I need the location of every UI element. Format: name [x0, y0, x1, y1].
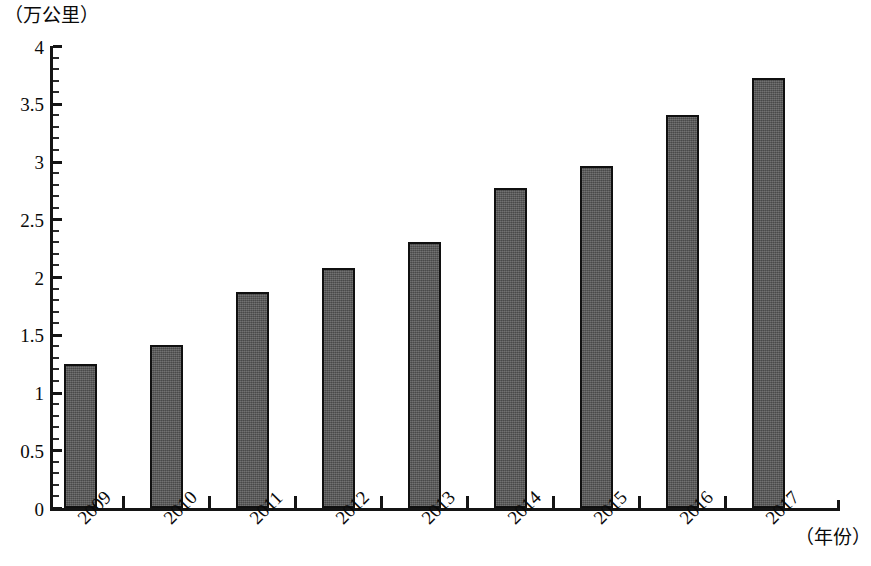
- bar: [666, 115, 699, 508]
- y-axis-minor-tick: [53, 230, 59, 232]
- y-axis-minor-tick: [53, 426, 59, 428]
- y-axis-tick: 4: [53, 45, 62, 48]
- bar-chart: （万公里） 00.511.522.533.54 2009201020112012…: [0, 0, 871, 566]
- y-axis-minor-tick: [53, 184, 59, 186]
- x-axis-tick: [294, 496, 297, 508]
- y-axis-tick-label: 4: [35, 37, 45, 56]
- y-axis-tick: 2.5: [53, 218, 62, 221]
- y-axis-minor-tick: [53, 126, 59, 128]
- y-axis-minor-tick: [53, 253, 59, 255]
- bar: [150, 345, 183, 508]
- x-axis-tick: [208, 496, 211, 508]
- x-axis-tick: [380, 496, 383, 508]
- y-axis-tick: 0.5: [53, 449, 62, 452]
- bar: [580, 166, 613, 508]
- y-axis-minor-tick: [53, 172, 59, 174]
- y-axis-minor-tick: [53, 311, 59, 313]
- y-axis-minor-tick: [53, 495, 59, 497]
- y-axis-minor-tick: [53, 149, 59, 151]
- y-axis-minor-tick: [53, 80, 59, 82]
- y-axis-minor-tick: [53, 114, 59, 116]
- y-axis-minor-tick: [53, 403, 59, 405]
- y-axis-tick-label: 1.5: [20, 326, 44, 345]
- bar: [408, 242, 441, 508]
- y-axis-tick: 3.5: [53, 103, 62, 106]
- y-axis-minor-tick: [53, 357, 59, 359]
- y-axis-minor-tick: [53, 57, 59, 59]
- y-axis-tick-label: 2: [35, 268, 45, 287]
- plot-area: 00.511.522.533.54: [50, 46, 840, 508]
- y-axis-minor-tick: [53, 461, 59, 463]
- y-axis-minor-tick: [53, 241, 59, 243]
- y-axis-tick-label: 0.5: [20, 441, 44, 460]
- y-axis-tick: 1: [53, 392, 62, 395]
- x-axis-tick: [122, 496, 125, 508]
- y-axis-minor-tick: [53, 438, 59, 440]
- y-axis-tick: 0: [53, 507, 62, 510]
- x-axis-end-tick: [837, 500, 840, 511]
- y-axis-minor-tick: [53, 299, 59, 301]
- y-axis-minor-tick: [53, 288, 59, 290]
- y-axis-minor-tick: [53, 91, 59, 93]
- y-axis-tick: 3: [53, 161, 62, 164]
- y-axis-minor-tick: [53, 322, 59, 324]
- y-axis-tick-label: 2.5: [20, 210, 44, 229]
- y-axis-tick-label: 0: [35, 499, 45, 518]
- bar: [64, 364, 97, 508]
- bar: [494, 188, 527, 508]
- y-axis-tick-label: 3: [35, 153, 45, 172]
- y-axis-tick-label: 3.5: [20, 95, 44, 114]
- y-axis-minor-tick: [53, 68, 59, 70]
- y-axis-minor-tick: [53, 207, 59, 209]
- y-axis-minor-tick: [53, 137, 59, 139]
- y-axis-minor-tick: [53, 345, 59, 347]
- x-axis-tick: [638, 496, 641, 508]
- y-axis-minor-tick: [53, 472, 59, 474]
- y-axis-tick: 1.5: [53, 334, 62, 337]
- y-axis-minor-tick: [53, 368, 59, 370]
- y-axis-unit-label: （万公里）: [4, 4, 99, 28]
- y-axis-minor-tick: [53, 264, 59, 266]
- x-axis-tick: [466, 496, 469, 508]
- x-axis-tick: [724, 496, 727, 508]
- x-axis-tick: [552, 496, 555, 508]
- y-axis-tick: 2: [53, 276, 62, 279]
- y-axis-minor-tick: [53, 415, 59, 417]
- y-axis-minor-tick: [53, 380, 59, 382]
- bar: [236, 292, 269, 508]
- bar: [752, 78, 785, 508]
- y-axis-tick-label: 1: [35, 384, 45, 403]
- y-axis-minor-tick: [53, 195, 59, 197]
- y-axis-minor-tick: [53, 484, 59, 486]
- x-axis-title: （年份）: [795, 528, 871, 547]
- bar: [322, 268, 355, 508]
